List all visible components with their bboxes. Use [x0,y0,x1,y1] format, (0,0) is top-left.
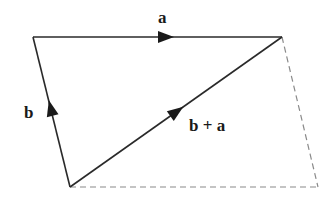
diagram-canvas [0,0,328,202]
arrowhead-sum-icon [167,102,187,121]
arrowhead-a-icon [158,31,174,43]
arrowhead-b-icon [43,99,58,117]
label-b: b [24,104,33,121]
label-b-plus-a: b + a [189,117,225,134]
dashed-edge-right [282,37,318,187]
vector-addition-diagram: a b b + a [0,0,328,202]
label-a: a [158,9,167,26]
